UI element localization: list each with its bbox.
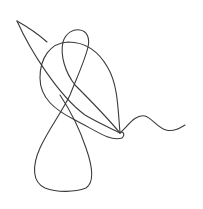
background (0, 0, 203, 209)
doodle-canvas (0, 0, 203, 209)
doodle-drawing (0, 0, 203, 209)
